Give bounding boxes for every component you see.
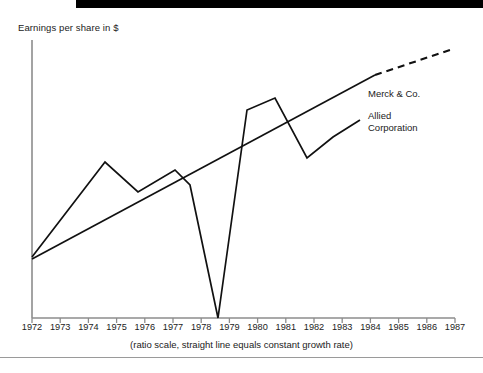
x-tick-label-1983: 1983 (327, 322, 357, 332)
chart-figure: 1972197319741975197619771978197919801981… (0, 0, 483, 373)
series-label-merck: Merck & Co. (368, 88, 420, 100)
x-tick-label-1978: 1978 (186, 322, 216, 332)
series-label-allied-corporation: Allied Corporation (368, 110, 418, 133)
x-tick-label-1986: 1986 (412, 322, 442, 332)
x-tick-label-1984: 1984 (355, 322, 385, 332)
x-tick-label-1987: 1987 (440, 322, 470, 332)
chart-caption: (ratio scale, straight line equals const… (0, 339, 483, 350)
x-tick-label-1973: 1973 (45, 322, 75, 332)
x-tick-label-1980: 1980 (243, 322, 273, 332)
x-tick-label-1975: 1975 (102, 322, 132, 332)
x-tick-label-1979: 1979 (214, 322, 244, 332)
series-line-merck-solid (32, 75, 375, 259)
bottom-divider-rule (0, 357, 483, 358)
x-tick-label-1976: 1976 (130, 322, 160, 332)
series-line-merck-dashed-projection (375, 50, 450, 75)
x-tick-label-1985: 1985 (384, 322, 414, 332)
x-tick-label-1981: 1981 (271, 322, 301, 332)
x-tick-label-1974: 1974 (73, 322, 103, 332)
x-tick-label-1977: 1977 (158, 322, 188, 332)
x-tick-label-1972: 1972 (17, 322, 47, 332)
chart-svg (0, 0, 483, 373)
x-tick-label-1982: 1982 (299, 322, 329, 332)
series-line-allied-corporation (32, 98, 360, 318)
